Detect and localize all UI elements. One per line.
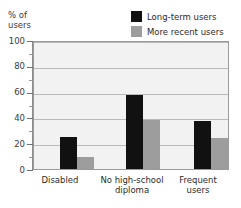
legend-label: More recent users (147, 27, 224, 37)
bar (194, 121, 211, 169)
gridline (34, 68, 228, 69)
x-axis-label-disabled: Disabled (24, 175, 96, 185)
y-axis-minor-tick (29, 157, 33, 158)
legend-label: Long-term users (147, 12, 217, 22)
y-axis-tick-label: 60 (0, 88, 25, 97)
y-axis-tick (27, 118, 33, 119)
bar (211, 138, 228, 169)
x-axis-label-frequent-users: Frequent users (166, 175, 230, 195)
bar (77, 157, 94, 169)
chart-legend: Long-term users More recent users (131, 11, 224, 37)
legend-item-long-term-users: Long-term users (131, 11, 224, 22)
y-axis-minor-tick (29, 131, 33, 132)
bar-chart: % of users Long-term users More recent u… (0, 0, 241, 208)
y-axis-minor-tick (29, 80, 33, 81)
y-axis-tick-label: 20 (0, 140, 25, 149)
y-axis-minor-tick (29, 106, 33, 107)
y-axis-tick-label: 40 (0, 114, 25, 123)
legend-swatch-icon (131, 26, 142, 37)
y-axis-tick (27, 93, 33, 94)
x-axis-label-no-high-school-diploma: No high-school diploma (90, 175, 174, 195)
bar (60, 137, 77, 169)
y-axis-tick-label: 0 (0, 166, 25, 175)
y-axis-tick (27, 67, 33, 68)
legend-swatch-icon (131, 11, 142, 22)
y-axis-minor-tick (29, 54, 33, 55)
bar (126, 95, 143, 169)
gridline (34, 42, 228, 43)
y-axis-tick-label: 100 (0, 37, 25, 46)
bar (143, 120, 160, 169)
y-axis-tick (27, 144, 33, 145)
plot-area (33, 41, 229, 170)
y-axis-tick (27, 41, 33, 42)
gridline (34, 94, 228, 95)
legend-item-more-recent-users: More recent users (131, 26, 224, 37)
y-axis-tick (27, 170, 33, 171)
y-axis-labels: 020406080100 (0, 0, 25, 208)
y-axis-tick-label: 80 (0, 62, 25, 71)
